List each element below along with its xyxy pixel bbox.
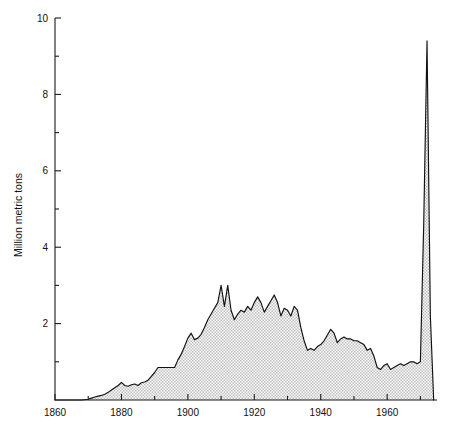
y-tick-label-2: 2	[42, 318, 48, 329]
y-axis-tick-labels: 246810	[37, 13, 49, 330]
series-area-fill	[55, 41, 434, 400]
y-tick-label-10: 10	[37, 13, 49, 24]
x-tick-label-1880: 1880	[110, 407, 133, 418]
area-chart: 246810 186018801900192019401960 Million …	[0, 0, 462, 434]
x-tick-label-1960: 1960	[376, 407, 399, 418]
y-tick-label-4: 4	[42, 242, 48, 253]
y-tick-label-6: 6	[42, 165, 48, 176]
chart-container: 246810 186018801900192019401960 Million …	[0, 0, 462, 434]
x-tick-label-1940: 1940	[310, 407, 333, 418]
x-tick-label-1920: 1920	[243, 407, 266, 418]
y-axis-ticks	[55, 18, 61, 362]
x-tick-label-1900: 1900	[177, 407, 200, 418]
y-axis-title: Million metric tons	[12, 173, 24, 257]
x-axis-tick-labels: 186018801900192019401960	[44, 407, 399, 418]
x-tick-label-1860: 1860	[44, 407, 67, 418]
y-tick-label-8: 8	[42, 89, 48, 100]
